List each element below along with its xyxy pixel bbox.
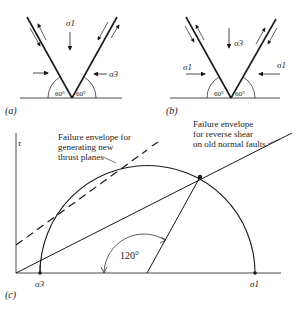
panel-label-b: (b) <box>166 105 178 117</box>
sigma1-label-c: σ1 <box>250 279 259 289</box>
angle-label-right-a: 60° <box>76 90 86 98</box>
fault-right-a <box>72 17 117 98</box>
sigma3-label-b: σ3 <box>234 38 243 48</box>
panel-a: 60° 60° σ1 σ3 (a) <box>5 17 122 117</box>
panel-label-c: (c) <box>5 289 17 301</box>
annotation-new-thrust: Failure envelope for generating new thru… <box>58 132 133 162</box>
panel-c: τ 120° σ3 σ1 (c) Failure envelope for ge… <box>5 119 292 301</box>
sigma1-label-a: σ1 <box>66 18 75 28</box>
envelope-new-thrust <box>16 150 147 245</box>
fault-left-a <box>27 17 72 98</box>
tau-axis-label: τ <box>18 138 22 148</box>
mohr-diagram-figure: 60° 60° σ1 σ3 (a) 60° 60° σ3 σ1 σ1 <box>0 0 300 310</box>
intersection-point <box>198 175 202 179</box>
angle-label-left-a: 60° <box>55 90 65 98</box>
leader-old-faults <box>268 139 280 144</box>
angle-label-right-b: 60° <box>235 90 245 98</box>
annotation-old-faults: Failure envelope for reverse shear on ol… <box>193 119 266 149</box>
sigma3-label-a: σ3 <box>109 69 118 79</box>
panel-label-a: (a) <box>5 105 17 117</box>
sigma1-label-right-b: σ1 <box>277 60 286 70</box>
sigma1-label-left-b: σ1 <box>183 62 192 72</box>
fault-right-b <box>231 19 276 98</box>
panel-b: 60° 60° σ3 σ1 σ1 (b) <box>166 17 286 117</box>
fault-left-b <box>186 17 231 98</box>
angle-label-left-b: 60° <box>214 90 224 98</box>
radius-line <box>147 177 200 273</box>
angle-label-120: 120° <box>120 250 139 261</box>
envelope-new-thrust-continued <box>152 142 158 146</box>
sigma3-label-c: σ3 <box>35 279 44 289</box>
sigma1-point <box>253 271 257 275</box>
leader-new-thrust <box>103 157 116 163</box>
mohr-circle <box>40 165 255 273</box>
